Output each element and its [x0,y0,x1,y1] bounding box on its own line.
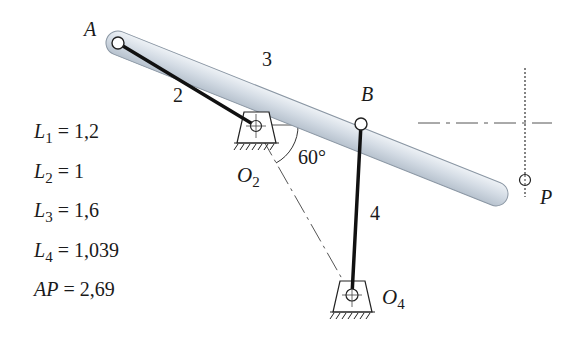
label-link-4: 4 [370,202,380,224]
pin-a [112,37,124,49]
parameter-l2: L2 = 1 [34,159,119,199]
construction-lines [262,68,552,284]
label-point-a: A [82,18,97,40]
parameter-ap: AP = 2,69 [34,277,119,317]
parameter-l1: L1 = 1,2 [34,119,119,159]
parameters-list: L1 = 1,2 L2 = 1 L3 = 1,6 L4 = 1,039 AP =… [34,119,119,317]
label-pivot-o4: O4 [382,285,405,312]
label-point-b: B [361,83,373,105]
label-pivot-o2: O2 [237,163,260,190]
label-link-2: 2 [173,84,183,106]
label-angle: 60° [298,146,326,168]
label-point-p: P [539,186,552,208]
label-link-3: 3 [262,48,272,70]
pin-b [355,118,367,130]
angle-arc [276,125,298,163]
link-3-coupler [102,27,511,209]
parameter-l4: L4 = 1,039 [34,238,119,278]
parameter-l3: L3 = 1,6 [34,198,119,238]
